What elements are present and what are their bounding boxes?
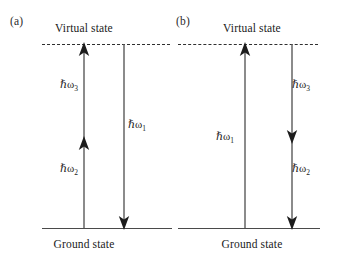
panel-a-absorption-arrow-up	[72, 40, 96, 232]
panel-b-virtual-state-label: Virtual state	[168, 22, 336, 34]
omega-subscript: 1	[142, 124, 146, 133]
panel-a-ground-state-label: Ground state	[0, 238, 168, 250]
panel-a-label-omega1: ℏω1	[128, 118, 146, 131]
panel-b-label-omega2: ℏω2	[292, 162, 310, 175]
figure-canvas: (a) Virtual state Ground state ℏω3 ℏω2 ℏ…	[0, 0, 337, 267]
panel-a-label-omega3: ℏω3	[60, 78, 78, 91]
panel-a-label-omega2: ℏω2	[60, 162, 78, 175]
omega-subscript: 2	[306, 168, 310, 177]
panel-a-ground-state-line	[42, 228, 172, 229]
panel-a-virtual-state-label: Virtual state	[0, 22, 168, 34]
omega-subscript: 2	[74, 168, 78, 177]
omega-subscript: 1	[230, 136, 234, 145]
omega-subscript: 3	[74, 84, 78, 93]
omega-subscript: 3	[306, 84, 310, 93]
panel-b-label-omega1: ℏω1	[216, 130, 234, 143]
panel-b-label-omega3: ℏω3	[292, 78, 310, 91]
panel-a: (a) Virtual state Ground state ℏω3 ℏω2 ℏ…	[0, 0, 168, 267]
panel-a-virtual-state-line	[42, 44, 170, 45]
panel-b-absorption-arrow-up	[233, 40, 257, 232]
panel-a-emission-arrow-down	[112, 40, 136, 232]
panel-b-emission-arrow-down	[280, 40, 304, 232]
panel-b: (b) Virtual state Ground state ℏω1 ℏω3 ℏ…	[168, 0, 336, 267]
panel-b-ground-state-label: Ground state	[168, 238, 336, 250]
